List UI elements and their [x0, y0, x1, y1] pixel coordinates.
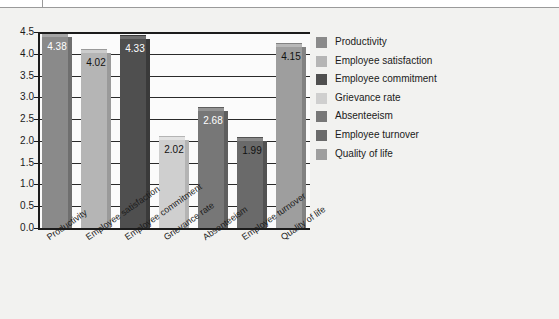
legend-item[interactable]: Employee satisfaction — [316, 53, 516, 72]
y-tick-mark — [34, 141, 39, 142]
legend-item[interactable]: Productivity — [316, 34, 516, 53]
bar-value-label: 1.99 — [234, 145, 270, 156]
legend-swatch-icon — [316, 149, 327, 160]
y-tick-label: 4.0 — [2, 49, 34, 59]
x-axis-category-labels: ProductivityEmployee satisfactionEmploye… — [38, 230, 328, 319]
legend-item-label: Quality of life — [335, 148, 393, 160]
y-tick-label: 2.0 — [2, 136, 34, 146]
header-tick-mark — [42, 0, 43, 8]
bar-side-face — [224, 111, 228, 228]
bar-value-label: 2.02 — [156, 144, 192, 155]
legend-item[interactable]: Employee commitment — [316, 71, 516, 90]
axis-left — [38, 32, 40, 230]
y-tick-mark — [34, 76, 39, 77]
y-tick-mark — [34, 228, 39, 229]
bar-chart: 0.00.51.01.52.02.53.03.54.04.5 Productiv… — [0, 8, 559, 319]
y-tick-label: 4.5 — [2, 27, 34, 37]
legend-swatch-icon — [316, 93, 327, 104]
gridline — [38, 76, 310, 77]
y-tick-mark — [34, 119, 39, 120]
bar-value-label: 4.15 — [273, 51, 309, 62]
y-tick-mark — [34, 206, 39, 207]
legend-swatch-icon — [316, 130, 327, 141]
bar-side-face — [68, 37, 72, 228]
bar-value-label: 4.38 — [39, 41, 75, 52]
legend-item[interactable]: Absenteeism — [316, 108, 516, 127]
legend-item[interactable]: Quality of life — [316, 146, 516, 165]
legend-swatch-icon — [316, 111, 327, 122]
legend-swatch-icon — [316, 37, 327, 48]
bar — [42, 33, 68, 228]
bar-value-label: 4.02 — [78, 57, 114, 68]
legend-item-label: Employee satisfaction — [335, 55, 432, 67]
y-tick-label: 0.5 — [2, 201, 34, 211]
y-tick-mark — [34, 184, 39, 185]
bar-side-face — [107, 53, 111, 228]
legend-item-label: Productivity — [335, 36, 387, 48]
legend-item[interactable]: Employee turnover — [316, 127, 516, 146]
y-tick-label: 0.0 — [2, 223, 34, 233]
legend-swatch-icon — [316, 56, 327, 67]
legend-item-label: Absenteeism — [335, 110, 393, 122]
legend-item-label: Employee commitment — [335, 73, 437, 85]
legend-item-label: Grievance rate — [335, 92, 401, 104]
chart-legend: ProductivityEmployee satisfactionEmploye… — [316, 34, 516, 164]
gridline — [38, 119, 310, 120]
gridline — [38, 97, 310, 98]
y-tick-mark — [34, 97, 39, 98]
gridline — [38, 54, 310, 55]
y-tick-mark — [34, 163, 39, 164]
y-tick-label: 1.0 — [2, 179, 34, 189]
bar-front-face — [42, 37, 68, 228]
legend-item[interactable]: Grievance rate — [316, 90, 516, 109]
y-tick-mark — [34, 32, 39, 33]
bar-front-face — [81, 53, 107, 228]
legend-item-label: Employee turnover — [335, 129, 419, 141]
y-axis-tick-labels: 0.00.51.01.52.02.53.03.54.04.5 — [0, 32, 34, 228]
chart-page: 0.00.51.01.52.02.53.03.54.04.5 Productiv… — [0, 0, 559, 319]
bar — [81, 49, 107, 228]
y-tick-label: 2.5 — [2, 114, 34, 124]
y-tick-mark — [34, 54, 39, 55]
legend-swatch-icon — [316, 74, 327, 85]
axis-top — [38, 32, 310, 34]
bar-value-label: 4.33 — [117, 43, 153, 54]
y-tick-label: 1.5 — [2, 158, 34, 168]
bar-value-label: 2.68 — [195, 115, 231, 126]
y-tick-label: 3.0 — [2, 92, 34, 102]
y-tick-label: 3.5 — [2, 71, 34, 81]
